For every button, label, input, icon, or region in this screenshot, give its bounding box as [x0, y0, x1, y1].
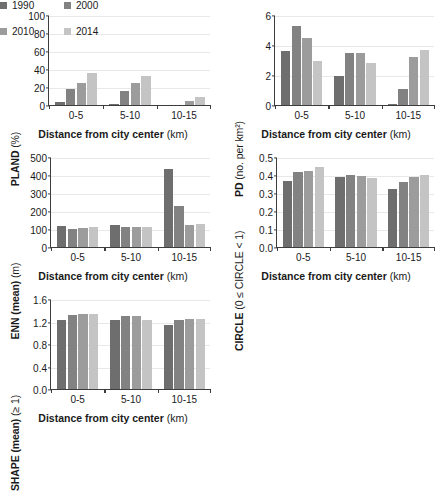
y-tick-label: 80: [34, 29, 45, 40]
x-tick-label: 5-10: [120, 110, 140, 121]
y-tick-label: 0.4: [259, 171, 273, 182]
legend-swatch-icon: [0, 28, 7, 35]
x-tick-label: 0-5: [294, 110, 308, 121]
chart-panel-pd: PD (no. per km²)02460-55-1010-15Distance…: [226, 4, 446, 142]
x-axis-title-main: Distance from city center: [261, 270, 389, 282]
bar: [388, 104, 398, 106]
y-tick-label: 0: [41, 243, 47, 254]
y-tick-mark: [272, 15, 275, 16]
x-tick-mark: [51, 389, 52, 393]
bar: [196, 224, 206, 247]
bar: [293, 172, 303, 247]
y-axis-title-main: SHAPE (mean): [9, 416, 21, 491]
legend-item-1990[interactable]: 1990: [0, 0, 34, 11]
x-axis-title-main: Distance from city center: [38, 412, 166, 424]
bar: [304, 171, 314, 248]
bar: [142, 227, 152, 247]
x-tick-mark: [158, 389, 159, 393]
x-tick-mark: [158, 247, 159, 251]
bar: [55, 102, 65, 105]
legend-swatch-icon: [0, 2, 7, 9]
bar: [121, 316, 131, 389]
bar: [399, 182, 409, 247]
y-tick-label: 2: [265, 71, 271, 82]
plot-area-shape: 0.00.40.81.21.60-55-1010-15: [50, 300, 210, 390]
x-tick-label: 5-10: [121, 394, 141, 405]
y-tick-mark: [48, 193, 51, 194]
bar: [357, 176, 367, 247]
x-tick-mark: [277, 247, 278, 251]
bar: [185, 319, 195, 389]
x-tick-label: 10-15: [171, 110, 197, 121]
x-tick-label: 0-5: [70, 252, 84, 263]
x-tick-label: 10-15: [172, 252, 198, 263]
y-tick-mark: [48, 322, 51, 323]
x-axis-title-shape: Distance from city center (km): [2, 412, 224, 424]
bar: [68, 315, 78, 389]
y-tick-mark: [274, 157, 277, 158]
chart-panel-shape: SHAPE (mean) (≥ 1)0.00.40.81.21.60-55-10…: [2, 288, 224, 420]
bar: [164, 169, 174, 247]
bar: [388, 189, 398, 247]
x-tick-label: 10-15: [396, 252, 422, 263]
y-tick-mark: [48, 175, 51, 176]
bar-group: [283, 158, 325, 247]
y-tick-label: 200: [30, 207, 47, 218]
bar-group: [164, 300, 206, 389]
y-tick-mark: [46, 87, 49, 88]
bar: [196, 319, 206, 389]
bar-group: [281, 16, 323, 105]
x-tick-mark: [104, 247, 105, 251]
y-tick-label: 20: [34, 83, 45, 94]
bar-group: [335, 158, 377, 247]
x-tick-mark: [49, 105, 50, 109]
bar: [420, 50, 430, 106]
y-tick-label: 0: [265, 101, 271, 112]
bar: [66, 89, 76, 105]
bar: [174, 206, 184, 247]
legend-item-2000[interactable]: 2000: [64, 0, 98, 11]
y-tick-label: 100: [30, 225, 47, 236]
bar: [142, 320, 152, 389]
y-tick-mark: [48, 157, 51, 158]
bar: [131, 83, 141, 105]
y-axis-title-circle: CIRCLE (0 ≤ CIRCLE < 1): [234, 251, 245, 351]
legend-item-2014[interactable]: 2014: [64, 26, 98, 37]
y-tick-mark: [274, 211, 277, 212]
bar: [87, 73, 97, 105]
y-tick-label: 0: [39, 101, 45, 112]
bar: [356, 53, 366, 106]
bar: [174, 320, 184, 389]
chart-panel-enn: ENN (mean) (m)01002003004005000-55-1010-…: [2, 146, 224, 284]
bar: [89, 314, 99, 389]
y-tick-label: 0.3: [259, 189, 273, 200]
legend-item-2010[interactable]: 2010: [0, 26, 34, 37]
bar: [68, 229, 78, 247]
x-axis-title-unit: (km): [167, 270, 188, 282]
y-tick-label: 4: [265, 41, 271, 52]
x-axis-title-unit: (km): [390, 128, 411, 140]
x-axis-title-pd: Distance from city center (km): [226, 128, 446, 140]
legend-label: 1990: [12, 0, 34, 11]
x-axis-title-main: Distance from city center: [38, 128, 166, 140]
bar-group: [334, 16, 376, 105]
y-tick-label: 500: [30, 153, 47, 164]
x-tick-mark: [103, 105, 104, 109]
x-tick-label: 0-5: [70, 394, 84, 405]
bar: [345, 53, 355, 106]
y-tick-mark: [46, 33, 49, 34]
bar: [398, 89, 408, 106]
x-tick-mark: [434, 105, 435, 109]
y-tick-mark: [46, 51, 49, 52]
x-tick-label: 10-15: [172, 394, 198, 405]
x-tick-label: 0-5: [296, 252, 310, 263]
y-tick-label: 300: [30, 189, 47, 200]
bar: [292, 26, 302, 106]
y-tick-label: 60: [34, 47, 45, 58]
x-tick-mark: [210, 389, 211, 393]
y-tick-mark: [48, 344, 51, 345]
x-tick-mark: [330, 247, 331, 251]
bar: [141, 76, 151, 105]
bar: [335, 177, 345, 247]
legend-label: 2010: [12, 26, 34, 37]
